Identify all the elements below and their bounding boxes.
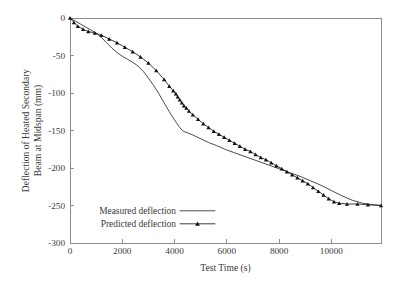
chart-figure: 0200040006000800010000 0-50-100-150-200-… xyxy=(0,0,398,285)
data-point-marker xyxy=(269,161,273,165)
x-axis-title: Test Time (s) xyxy=(200,262,251,274)
x-tick-label: 10000 xyxy=(320,246,343,256)
x-tick-label: 4000 xyxy=(165,246,184,256)
y-axis-title-line1: Deflection of Heated Secondary xyxy=(20,69,31,193)
y-tick-label: -200 xyxy=(48,163,65,173)
data-point-marker xyxy=(306,182,310,186)
y-axis-tick-labels: 0-50-100-150-200-250-300 xyxy=(48,13,65,248)
y-axis-title-line2: Beam at Midspan (mm) xyxy=(32,85,44,176)
x-axis-tick-labels: 0200040006000800010000 xyxy=(68,246,344,256)
data-point-marker xyxy=(227,138,231,142)
x-tick-label: 0 xyxy=(68,246,73,256)
data-point-marker xyxy=(115,41,119,45)
legend-item-measured-label: Measured deflection xyxy=(99,206,176,216)
x-axis-ticks xyxy=(70,239,331,243)
data-point-marker xyxy=(222,135,226,139)
data-point-marker xyxy=(280,167,284,171)
data-point-marker xyxy=(138,55,142,59)
y-tick-label: -100 xyxy=(48,88,65,98)
legend: Measured deflection Predicted deflection xyxy=(99,206,215,229)
data-point-marker xyxy=(233,141,237,145)
data-point-marker xyxy=(123,45,127,49)
y-axis-ticks xyxy=(70,18,74,243)
series-predicted-markers xyxy=(68,16,383,207)
data-point-marker xyxy=(285,170,289,174)
series-measured-deflection xyxy=(70,18,381,206)
y-tick-label: 0 xyxy=(60,13,65,23)
y-tick-label: -150 xyxy=(48,126,65,136)
y-tick-label: -300 xyxy=(48,238,65,248)
data-point-marker xyxy=(107,37,111,41)
data-point-marker xyxy=(81,27,85,31)
data-point-marker xyxy=(243,147,247,151)
chart-canvas: 0200040006000800010000 0-50-100-150-200-… xyxy=(0,0,398,285)
data-point-marker xyxy=(238,144,242,148)
series-predicted-deflection xyxy=(70,18,381,206)
x-tick-label: 2000 xyxy=(113,246,132,256)
legend-item-predicted-label: Predicted deflection xyxy=(101,219,177,229)
data-point-marker xyxy=(253,152,257,156)
data-point-marker xyxy=(332,200,336,204)
y-tick-label: -250 xyxy=(48,201,65,211)
data-point-marker xyxy=(274,164,278,168)
series-group xyxy=(68,16,383,207)
data-point-marker xyxy=(131,50,135,54)
x-tick-label: 8000 xyxy=(270,246,289,256)
data-point-marker xyxy=(259,155,263,159)
data-point-marker xyxy=(300,179,304,183)
x-tick-label: 6000 xyxy=(218,246,237,256)
y-tick-label: -50 xyxy=(53,51,66,61)
data-point-marker xyxy=(217,132,221,136)
